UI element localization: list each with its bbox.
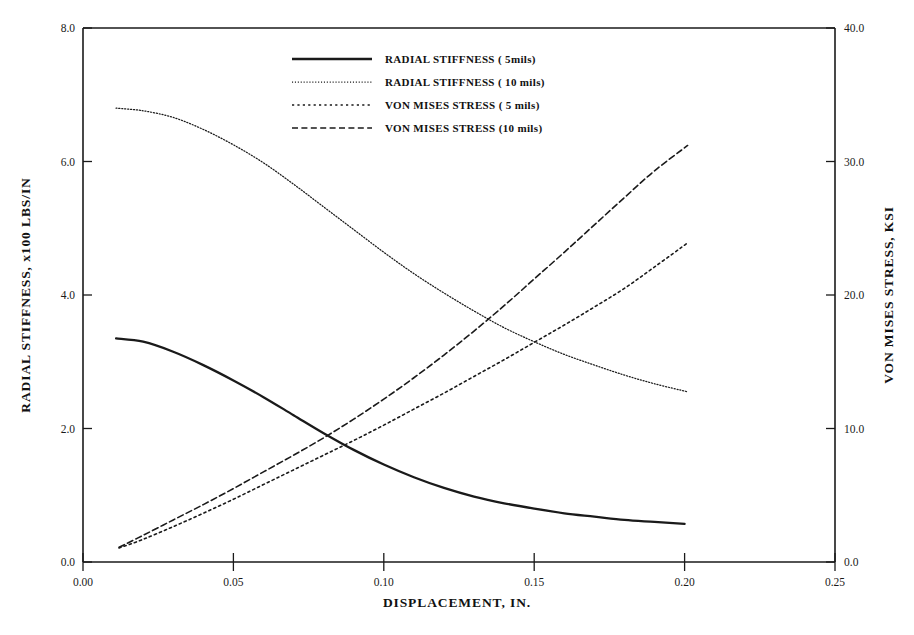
y-right-tick-label: 10.0 bbox=[844, 423, 864, 435]
x-tick-label: 0.10 bbox=[374, 576, 394, 588]
y-right-tick-label: 20.0 bbox=[844, 289, 864, 301]
x-tick-label: 0.05 bbox=[223, 576, 243, 588]
legend-label-3: VON MISES STRESS (10 mils) bbox=[385, 122, 542, 135]
y-left-tick-label: 4.0 bbox=[61, 289, 76, 301]
x-tick-label: 0.25 bbox=[825, 576, 845, 588]
y-axis-left-title: RADIAL STIFFNESS, x100 LBS/IN bbox=[18, 177, 33, 412]
x-tick-label: 0.00 bbox=[73, 576, 93, 588]
x-tick-label: 0.20 bbox=[675, 576, 695, 588]
legend-label-1: RADIAL STIFFNESS ( 10 mils) bbox=[385, 76, 545, 89]
y-axis-right-title: VON MISES STRESS, KSI bbox=[881, 206, 896, 384]
chart-background bbox=[0, 0, 914, 635]
legend-label-0: RADIAL STIFFNESS ( 5mils) bbox=[385, 53, 536, 66]
y-right-tick-label: 0.0 bbox=[844, 556, 859, 568]
y-right-tick-label: 30.0 bbox=[844, 156, 864, 168]
y-right-tick-label: 40.0 bbox=[844, 22, 864, 34]
legend-label-2: VON MISES STRESS ( 5 mils) bbox=[385, 99, 540, 112]
radial-stiffness-von-mises-chart: 0.02.04.06.08.0 0.010.020.030.040.0 0.00… bbox=[0, 0, 914, 635]
x-axis-title: DISPLACEMENT, IN. bbox=[383, 595, 531, 610]
y-left-tick-label: 2.0 bbox=[61, 423, 76, 435]
x-tick-label: 0.15 bbox=[524, 576, 544, 588]
y-left-tick-label: 0.0 bbox=[61, 556, 76, 568]
y-left-tick-label: 8.0 bbox=[61, 22, 76, 34]
y-left-tick-label: 6.0 bbox=[61, 156, 76, 168]
